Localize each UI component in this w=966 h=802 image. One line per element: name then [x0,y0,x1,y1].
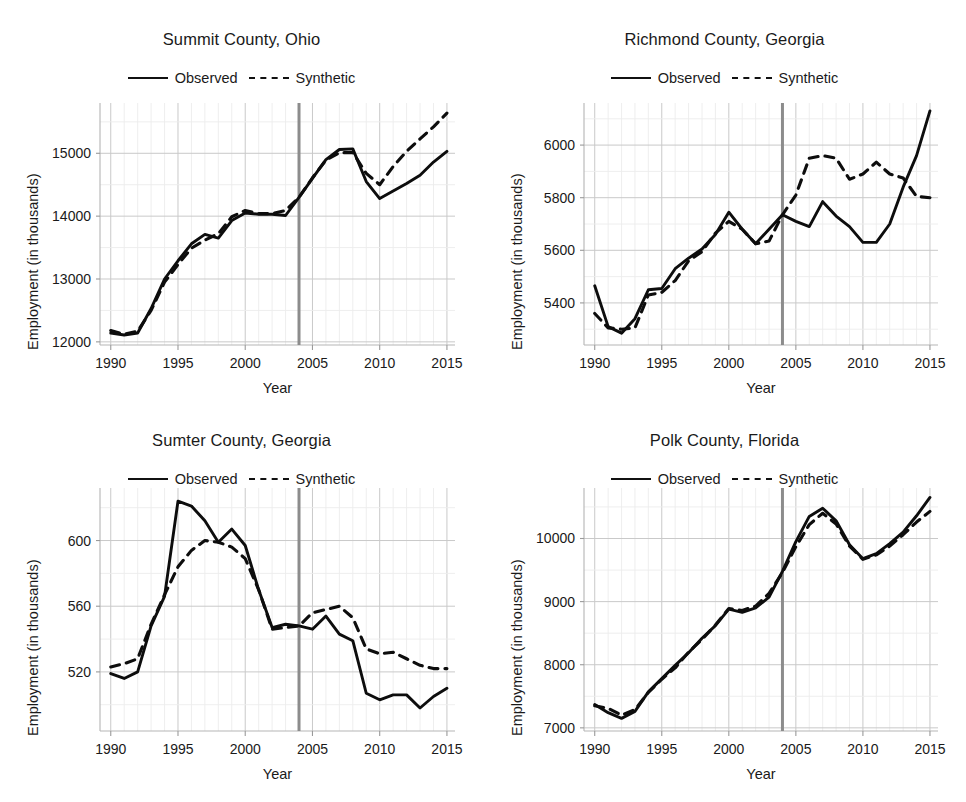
y-tick-label: 520 [68,664,92,680]
series-line-synthetic [111,541,447,669]
plot-area: 7000800090001000019901995200020052010201… [483,401,966,802]
x-tick-label: 2000 [230,355,261,371]
plot-area: 5400560058006000199019952000200520102015 [483,0,966,401]
x-tick-label: 1990 [579,355,610,371]
x-tick-label: 1995 [162,741,193,757]
chart-panel: Polk County, FloridaObservedSynthetic700… [483,401,966,802]
y-tick-label: 15000 [52,145,91,161]
y-tick-label: 9000 [544,594,575,610]
y-tick-label: 5600 [544,242,575,258]
chart-panel: Summit County, OhioObservedSynthetic1200… [0,0,483,401]
x-tick-label: 2015 [914,741,945,757]
y-axis-label: Employment (in thousands) [25,174,41,351]
gridlines [584,488,938,731]
x-tick-label: 2015 [431,355,462,371]
gridlines [584,103,938,345]
x-tick-label: 2000 [713,355,744,371]
x-tick-label: 2015 [431,741,462,757]
panel-grid: Summit County, OhioObservedSynthetic1200… [0,0,966,802]
series-line-observed [595,497,930,718]
y-tick-label: 560 [68,598,92,614]
series-line-synthetic [111,113,447,334]
x-tick-label: 1990 [95,741,126,757]
series-line-observed [595,111,930,333]
x-tick-label: 1995 [646,355,677,371]
x-tick-label: 2005 [780,355,811,371]
x-tick-label: 1990 [579,741,610,757]
plot-area: 520560600199019952000200520102015 [0,401,483,802]
series-line-observed [111,149,447,335]
y-tick-label: 5800 [544,190,575,206]
x-tick-label: 2005 [297,741,328,757]
x-axis-label: Year [100,380,455,396]
x-tick-label: 2005 [780,741,811,757]
x-tick-label: 2015 [914,355,945,371]
y-axis-label: Employment (in thousands) [509,174,525,351]
y-tick-label: 6000 [544,137,575,153]
y-axis-label: Employment (in thousands) [25,560,41,737]
x-axis-label: Year [584,766,938,782]
y-tick-label: 10000 [536,530,575,546]
x-tick-label: 2000 [713,741,744,757]
x-tick-label: 2010 [364,741,395,757]
y-tick-label: 7000 [544,720,575,736]
x-tick-label: 2000 [230,741,261,757]
plot-area: 1200013000140001500019901995200020052010… [0,0,483,401]
x-tick-label: 2010 [364,355,395,371]
y-tick-label: 600 [68,533,92,549]
y-tick-label: 14000 [52,208,91,224]
y-tick-label: 13000 [52,271,91,287]
x-tick-label: 1990 [95,355,126,371]
x-tick-label: 1995 [646,741,677,757]
x-tick-label: 2005 [297,355,328,371]
y-tick-label: 8000 [544,657,575,673]
y-axis-label: Employment (in thousands) [509,560,525,737]
y-tick-label: 12000 [52,334,91,350]
x-tick-label: 2010 [847,355,878,371]
x-tick-label: 1995 [162,355,193,371]
x-tick-label: 2010 [847,741,878,757]
y-tick-label: 5400 [544,295,575,311]
chart-panel: Richmond County, GeorgiaObservedSyntheti… [483,0,966,401]
chart-panel: Sumter County, GeorgiaObservedSynthetic5… [0,401,483,802]
series-line-synthetic [595,511,930,715]
x-axis-label: Year [584,380,938,396]
x-axis-label: Year [100,766,455,782]
